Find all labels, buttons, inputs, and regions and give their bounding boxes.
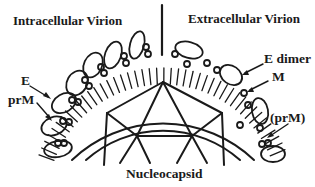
label-nucleocapsid: Nucleocapsid (126, 167, 203, 181)
label-m: M (272, 70, 285, 84)
virion-drawing (0, 0, 315, 187)
label-e-dimer: E dimer (264, 52, 311, 66)
label-e: E (21, 74, 30, 88)
intracellular-virion-title: Intracellular Virion (13, 14, 122, 27)
label-prm: prM (8, 93, 34, 107)
outer-membrane-line (72, 124, 254, 160)
extracellular-virion-title: Extracellular Virion (188, 12, 300, 25)
label-prm-parenthesized: (prM) (270, 111, 305, 125)
virion-diagram: Intracellular Virion Extracellular Virio… (0, 0, 315, 187)
